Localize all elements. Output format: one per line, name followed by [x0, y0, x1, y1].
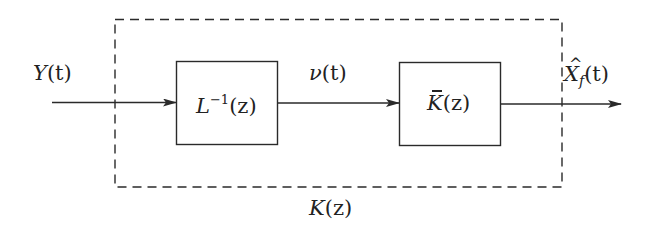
- output-arg: (t): [584, 62, 609, 86]
- input-symbol: Y: [33, 61, 47, 85]
- input-arg: (t): [47, 61, 72, 85]
- intermediate-symbol: ν: [309, 61, 322, 85]
- intermediate-signal-label: ν(t): [309, 63, 347, 84]
- group-arg: (z): [325, 196, 352, 220]
- block-l-superscript: −1: [210, 92, 229, 107]
- block-l-symbol: L: [196, 94, 210, 118]
- block-k-symbol: K: [427, 93, 443, 114]
- block-k-bar-label: K(z): [427, 93, 470, 114]
- output-signal-label: Xf(t): [564, 64, 609, 88]
- input-signal-label: Y(t): [33, 63, 72, 84]
- group-symbol: K: [309, 196, 325, 220]
- intermediate-arg: (t): [322, 61, 347, 85]
- output-symbol: X: [564, 64, 579, 85]
- block-l-inverse-label: L−1(z): [196, 93, 257, 117]
- block-l-arg: (z): [229, 94, 256, 118]
- controller-group-label: K(z): [309, 198, 352, 219]
- block-diagram: Y(t) ν(t) Xf(t) L−1(z) K(z) K(z): [0, 0, 672, 230]
- block-k-arg: (z): [443, 91, 470, 115]
